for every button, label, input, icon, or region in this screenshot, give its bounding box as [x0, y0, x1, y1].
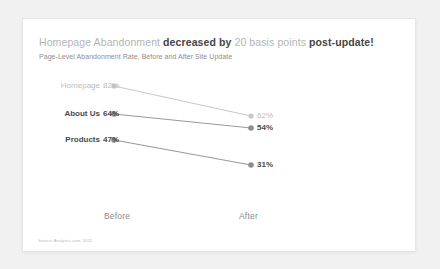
left-category-about-us: About Us: [64, 109, 100, 118]
right-value-about-us: 54%: [257, 123, 273, 133]
headline-segment-1: Homepage Abandonment: [39, 36, 163, 48]
left-value-products: 47%: [103, 135, 119, 144]
series-line-products: [111, 137, 254, 168]
right-value-homepage: 62%: [257, 111, 273, 121]
left-label-about-us: About Us64%: [64, 109, 119, 119]
series-line-homepage: [111, 83, 253, 118]
left-value-homepage: 82%: [103, 81, 119, 90]
left-label-products: Products47%: [65, 135, 119, 145]
series-line-about-us: [111, 111, 254, 131]
headline-segment-4: post-update!: [309, 36, 374, 48]
chart-subtitle: Page-Level Abandonment Rate, Before and …: [39, 52, 232, 62]
right-value-products: 31%: [257, 160, 273, 170]
left-value-about-us: 64%: [103, 109, 119, 118]
left-category-products: Products: [65, 135, 100, 144]
source-note: Source: Analytics.com, 2021.: [38, 238, 93, 243]
left-label-homepage: Homepage82%: [61, 81, 119, 91]
screenshot-root: Homepage Abandonment decreased by 20 bas…: [0, 0, 440, 269]
axis-label-after: After: [239, 211, 258, 221]
axis-label-before: Before: [104, 211, 130, 221]
headline-segment-2: decreased by: [163, 36, 234, 48]
headline-segment-3: 20 basis points: [234, 36, 309, 48]
left-category-homepage: Homepage: [61, 81, 100, 90]
chart-card: Homepage Abandonment decreased by 20 bas…: [22, 18, 416, 252]
chart-headline: Homepage Abandonment decreased by 20 bas…: [39, 36, 401, 49]
